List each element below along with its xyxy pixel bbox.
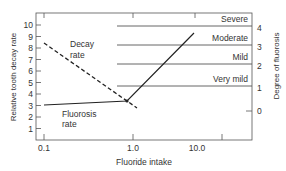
- y-tick-label: 7: [28, 55, 33, 65]
- x-tick-label: 1.0: [127, 143, 139, 153]
- left-axis: 1 2 3 4 5 6 7 8 9 10: [24, 20, 41, 134]
- y2-tick-label: 4: [257, 23, 262, 33]
- y2-tick-label: 3: [257, 42, 262, 52]
- y-tick-label: 1: [28, 124, 33, 134]
- decay-annotation: Decay: [70, 39, 95, 49]
- band-label-severe: Severe: [221, 14, 248, 24]
- y-tick-label: 8: [28, 43, 33, 53]
- x-axis-title: Fluoride intake: [116, 157, 172, 167]
- y2-tick-label: 1: [257, 83, 262, 93]
- fluorosis-rate-line: [44, 33, 194, 105]
- band-label-moderate: Moderate: [212, 33, 248, 43]
- annotations: Decay rate Fluorosis rate: [62, 39, 96, 129]
- y-tick-label: 9: [28, 32, 33, 42]
- y-tick-label: 4: [28, 89, 33, 99]
- x-axis: 0.1 1.0 10.0: [38, 13, 222, 153]
- right-axis: 4 3 2 1 0: [246, 23, 262, 116]
- fluorosis-annotation: rate: [62, 119, 77, 129]
- fluoride-chart: 1 2 3 4 5 6 7 8 9 10 Relative tooth deca…: [0, 0, 286, 171]
- y-axis-title: Relative tooth decay rate: [9, 32, 18, 121]
- decay-annotation: rate: [70, 50, 85, 60]
- x-tick-label: 0.1: [38, 143, 50, 153]
- fluorosis-bands: Severe Moderate Mild Very mild: [117, 14, 252, 86]
- y-tick-label: 6: [28, 66, 33, 76]
- band-label-very-mild: Very mild: [213, 74, 248, 84]
- fluorosis-annotation: Fluorosis: [62, 109, 96, 119]
- y-tick-label: 5: [28, 78, 33, 88]
- y2-tick-label: 2: [257, 61, 262, 71]
- band-label-mild: Mild: [232, 52, 248, 62]
- y-tick-label: 2: [28, 112, 33, 122]
- y-tick-label: 10: [24, 20, 34, 30]
- y-tick-label: 3: [28, 101, 33, 111]
- y2-axis-title: Degree of fluorosis: [272, 32, 281, 99]
- intersection-marker: [125, 99, 128, 102]
- decay-rate-line: [44, 43, 137, 108]
- x-tick-label: 10.0: [189, 143, 206, 153]
- y2-tick-label: 0: [257, 106, 262, 116]
